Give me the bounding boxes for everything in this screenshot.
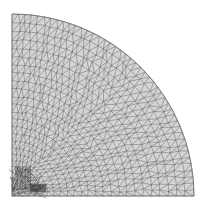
mesh-diagram [0,0,210,212]
refinement-cluster [30,184,46,192]
